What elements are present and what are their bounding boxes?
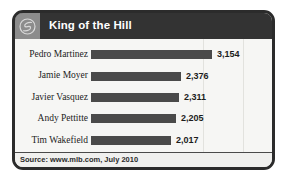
bar-rows: Pedro Martinez 3,154 Jamie Moyer 2,376 J… xyxy=(15,42,272,152)
card-footer: Source: www.mlb.com, July 2010 xyxy=(15,152,272,167)
bar-category-label: Javier Vasquez xyxy=(15,93,91,103)
bar-series-mark xyxy=(91,72,181,81)
table-row: Andy Pettitte 2,205 xyxy=(15,112,272,126)
card-title: King of the Hill xyxy=(49,20,132,32)
chart-plot-area: Pedro Martinez 3,154 Jamie Moyer 2,376 J… xyxy=(15,39,272,152)
bar-series-mark xyxy=(91,50,212,59)
bar-series-mark xyxy=(91,93,179,102)
source-attribution: Source: www.mlb.com, July 2010 xyxy=(20,156,138,164)
bar-category-label: Andy Pettitte xyxy=(15,114,91,124)
table-row: Tim Wakefield 2,017 xyxy=(15,133,272,147)
bar-category-label: Jamie Moyer xyxy=(15,71,91,81)
swirl-circle-logo-icon xyxy=(19,18,36,35)
table-row: Javier Vasquez 2,311 xyxy=(15,90,272,104)
logo-container xyxy=(15,13,40,39)
bar-value-label: 2,205 xyxy=(181,114,204,123)
infographic-card: King of the Hill Pedro Martinez 3,154 Ja… xyxy=(12,10,275,170)
table-row: Jamie Moyer 2,376 xyxy=(15,69,272,83)
bar-value-label: 3,154 xyxy=(217,50,240,59)
bar-category-label: Pedro Martinez xyxy=(15,50,91,60)
card-header: King of the Hill xyxy=(15,13,272,39)
bar-series-mark xyxy=(91,136,171,145)
bar-value-label: 2,376 xyxy=(186,72,209,81)
table-row: Pedro Martinez 3,154 xyxy=(15,48,272,62)
bar-series-mark xyxy=(91,114,176,123)
bar-value-label: 2,311 xyxy=(184,93,206,102)
bar-value-label: 2,017 xyxy=(176,136,199,145)
bar-category-label: Tim Wakefield xyxy=(15,136,91,146)
